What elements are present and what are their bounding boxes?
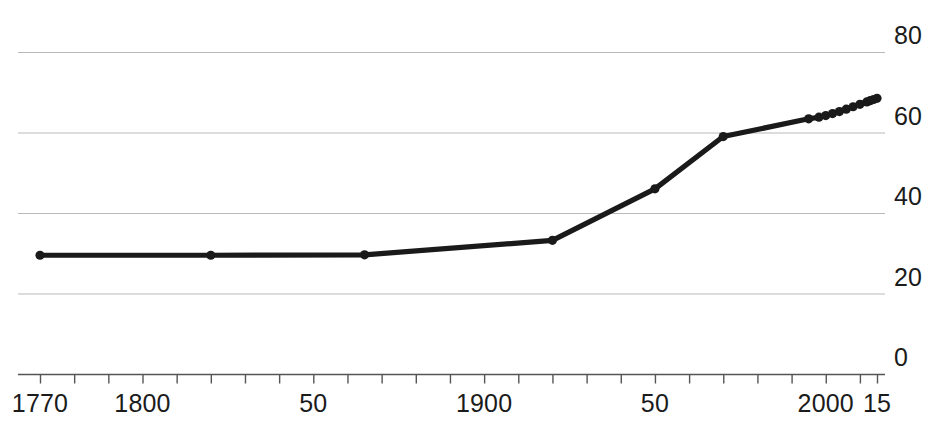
data-point-marker (548, 236, 557, 245)
data-point-markers-group (35, 94, 881, 260)
x-axis-tick-label-2000: 2000 (798, 391, 854, 416)
y-axis-tick-label-20: 20 (894, 265, 922, 290)
x-axis-tick-label-1800: 1800 (114, 391, 170, 416)
y-axis-tick-label-40: 40 (894, 184, 922, 209)
x-axis-tick-label-1850: 50 (299, 391, 327, 416)
data-series-group (40, 98, 877, 255)
x-axis-ticks-group (41, 375, 878, 384)
x-axis-tick-label-2015: 15 (863, 391, 891, 416)
data-point-marker (872, 94, 881, 103)
x-axis-tick-label-1900: 1900 (456, 391, 512, 416)
y-axis-tick-label-80: 80 (894, 23, 922, 48)
data-point-marker (35, 251, 44, 260)
line-chart-plot (0, 0, 936, 448)
series-line-1 (40, 98, 877, 255)
data-point-marker (719, 132, 728, 141)
data-point-marker (804, 114, 813, 123)
y-axis-tick-label-60: 60 (894, 104, 922, 129)
x-axis-tick-label-1950: 50 (641, 391, 669, 416)
data-point-marker (206, 251, 215, 260)
caption-remnant (6, 428, 126, 442)
data-point-marker (360, 250, 369, 259)
x-axis-tick-label-1770: 1770 (12, 391, 68, 416)
data-point-marker (650, 184, 659, 193)
chart-container: 806040200 1770180050190050200015 (0, 0, 936, 448)
y-axis-tick-label-0: 0 (894, 345, 908, 370)
